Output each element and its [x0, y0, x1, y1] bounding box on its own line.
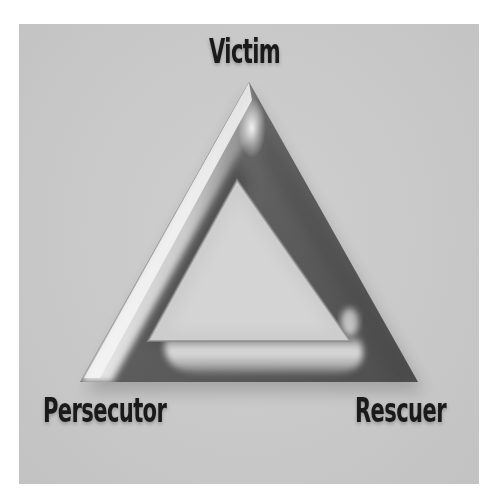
- label-victim: Victim: [209, 34, 280, 68]
- apex-glow: [238, 98, 266, 158]
- bottom-bulge: [164, 338, 362, 374]
- label-persecutor: Persecutor: [43, 393, 166, 427]
- label-rescuer: Rescuer: [355, 393, 446, 427]
